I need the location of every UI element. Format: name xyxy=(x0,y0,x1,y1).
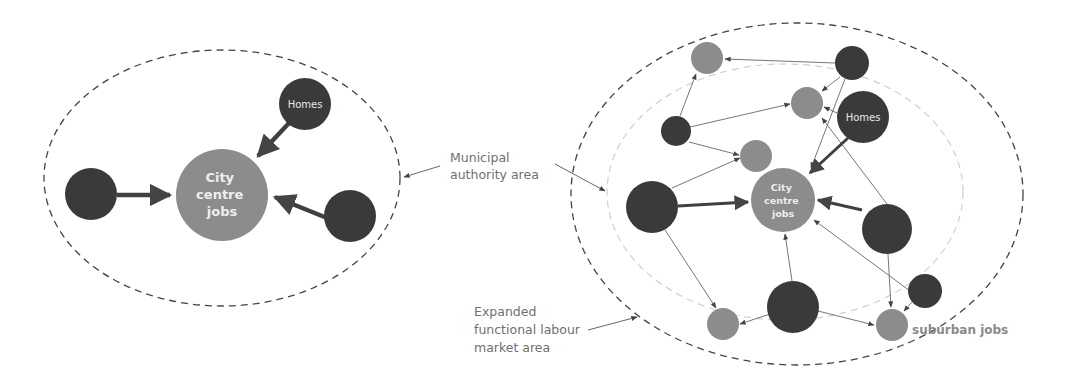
homes-label: Homes xyxy=(846,112,881,123)
commute-arrow-homes xyxy=(258,122,290,156)
home-node xyxy=(862,204,912,254)
home-node-right xyxy=(324,190,376,242)
suburban-jobs-node xyxy=(876,309,908,341)
commuting-diagram: City centre jobs Homes Municipal authori… xyxy=(0,0,1065,378)
monocentric-city-diagram: City centre jobs Homes xyxy=(44,50,400,306)
home-node xyxy=(661,116,691,146)
municipal-authority-label: Municipal authority area xyxy=(450,150,539,182)
expanded-labour-market-label: Expanded functional labour market area xyxy=(474,304,584,355)
homes-label: Homes xyxy=(288,99,323,110)
home-node xyxy=(767,281,819,333)
job-node xyxy=(740,140,772,172)
annotations: Municipal authority area Expanded functi… xyxy=(404,150,637,355)
polycentric-city-diagram: City centre jobs Homes suburban jobs xyxy=(571,23,1023,365)
home-node xyxy=(908,274,942,308)
expanded-pointer xyxy=(588,317,637,330)
municipal-pointer-right xyxy=(555,164,605,191)
home-node xyxy=(835,46,869,80)
municipal-pointer-left xyxy=(404,166,440,177)
job-node xyxy=(707,308,739,340)
commute-arrow-right xyxy=(275,197,327,218)
home-node-left xyxy=(65,168,117,220)
job-node xyxy=(791,87,823,119)
suburban-jobs-label: suburban jobs xyxy=(912,323,1008,337)
job-node xyxy=(691,42,723,74)
home-node xyxy=(626,181,678,233)
